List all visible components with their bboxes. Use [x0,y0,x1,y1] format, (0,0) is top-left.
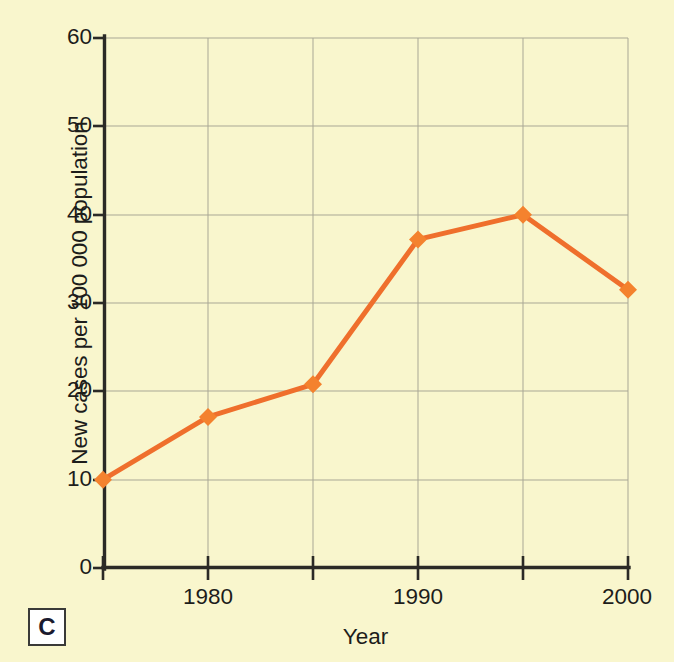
y-axis-title: New cases per 100 000 population [67,58,93,528]
x-axis-title: Year [103,624,628,650]
x-tick-label-1980: 1980 [163,586,253,609]
panel-label-c: C [28,608,66,646]
x-tick-label-1990: 1990 [373,586,463,609]
x-axis-tick-labels: 1980 1990 2000 [0,0,674,662]
x-tick-label-2000: 2000 [582,586,672,609]
figure-panel: 60 50 40 30 20 10 0 1980 1990 2000 New c… [0,0,674,662]
